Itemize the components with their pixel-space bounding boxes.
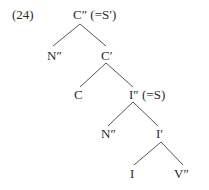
tree-edges [0, 0, 209, 190]
node-i-bar: I′ [156, 127, 163, 140]
edge-root-n1 [53, 24, 80, 46]
edge-cbar-c [80, 63, 106, 87]
node-i-double-bar: I″ (=S) [129, 88, 165, 101]
edge-idbl-n2 [108, 102, 133, 126]
edge-root-cbar [80, 24, 106, 46]
edge-ibar-vdbl [161, 142, 183, 165]
node-n-double-bar-2: N″ [101, 127, 116, 140]
edge-cbar-idbl [106, 63, 133, 87]
edge-ibar-i [134, 142, 161, 165]
node-root-c-double-bar: C″ (=S′) [73, 8, 116, 21]
node-n-double-bar-1: N″ [47, 49, 62, 62]
node-c-bar: C′ [101, 49, 113, 62]
node-i: I [130, 167, 134, 180]
node-v-double-bar: V″ [174, 167, 189, 180]
node-c: C [74, 88, 83, 101]
edge-idbl-ibar [133, 102, 158, 126]
